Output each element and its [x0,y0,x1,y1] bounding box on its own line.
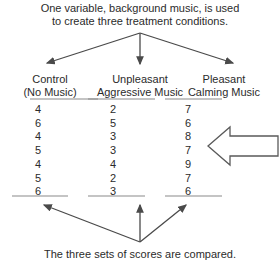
arrow-to-condition-right [140,33,233,63]
arrow-from-scores-left [44,205,140,242]
score-value: 3 [101,144,125,158]
score-value: 6 [26,185,50,199]
score-value: 6 [176,117,200,131]
top-branching-arrows [47,33,233,64]
column-header-control-line-1: Control [8,73,92,86]
score-value: 7 [176,103,200,117]
score-value: 7 [176,172,200,186]
callout-block-arrow-icon [208,127,278,165]
top-caption-line-1: One variable, background music, is used [0,2,280,15]
score-value: 4 [26,103,50,117]
score-value: 5 [26,172,50,186]
score-value: 5 [101,117,125,131]
top-caption-line-2: to create three treatment conditions. [0,15,280,28]
score-value: 7 [176,144,200,158]
score-value: 6 [176,185,200,199]
top-caption: One variable, background music, is used … [0,2,280,28]
score-column-control: 4 6 4 5 4 5 6 [26,103,50,199]
score-value: 9 [176,158,200,172]
score-value: 6 [26,117,50,131]
column-header-control-line-2: (No Music) [8,86,92,99]
arrow-from-scores-right [140,205,186,242]
score-column-pleasant: 7 6 8 7 9 7 6 [176,103,200,199]
score-value: 2 [101,103,125,117]
column-header-control: Control (No Music) [8,73,92,98]
column-header-pleasant: Pleasant Calming Music [178,73,270,98]
score-value: 3 [101,130,125,144]
score-value: 2 [101,172,125,186]
score-column-unpleasant: 2 5 3 3 4 2 3 [101,103,125,199]
score-value: 4 [26,158,50,172]
arrow-to-condition-left [47,33,140,63]
score-value: 4 [26,130,50,144]
score-value: 3 [101,185,125,199]
column-header-pleasant-line-1: Pleasant [178,73,270,86]
score-value: 8 [176,130,200,144]
score-value: 5 [26,144,50,158]
research-design-diagram: One variable, background music, is used … [0,0,280,267]
score-value: 4 [101,158,125,172]
bottom-caption: The three sets of scores are compared. [0,248,280,261]
column-header-pleasant-line-2: Calming Music [178,86,270,99]
bottom-converging-arrows [44,205,186,242]
